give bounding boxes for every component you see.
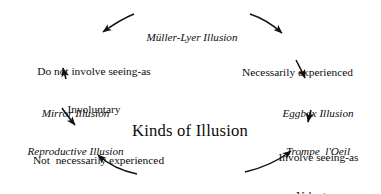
node-necessarily-experienced-line1: Necessarily experienced <box>225 66 370 79</box>
node-involve-seeing-as-line2: Voluntary <box>262 189 375 194</box>
node-do-not-involve-seeing-as-line1: Do not involve seeing-as <box>14 65 174 78</box>
kinds-of-illusion-diagram: Müller-Lyer Illusion Do not involve seei… <box>0 0 381 194</box>
node-projective-illusion-label: Projective Illusion <box>140 193 242 194</box>
node-involve-seeing-as: Involve seeing-as Voluntary <box>262 125 375 194</box>
node-involve-seeing-as-line1: Involve seeing-as <box>262 151 375 164</box>
arrow-mullerlyer-to-necessarilyexperienced <box>250 14 282 33</box>
node-not-necessarily-experienced-line1: Not necessarily experienced <box>17 154 180 167</box>
arrow-mullerlyer-to-donotinvolve <box>103 14 134 32</box>
node-projective-illusion: Projective Illusion <box>140 168 242 194</box>
node-eggbox-illusion-label: Eggbox Illusion <box>262 107 374 120</box>
